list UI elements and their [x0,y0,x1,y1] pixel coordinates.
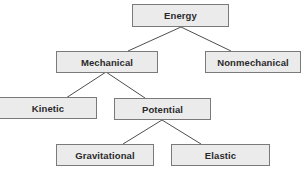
node-nonmechanical: Nonmechanical [205,51,301,73]
node-gravitational-label: Gravitational [75,150,134,161]
node-gravitational: Gravitational [56,144,154,166]
edge-energy-mechanical [128,27,181,51]
node-nonmechanical-label: Nonmechanical [217,57,289,68]
edge-potential-gravitational [123,120,162,144]
node-mechanical: Mechanical [56,51,158,73]
node-energy-label: Energy [164,10,197,21]
node-energy: Energy [132,4,229,27]
edge-mechanical-kinetic [66,72,106,98]
edge-mechanical-potential [106,72,145,98]
node-elastic: Elastic [171,144,270,166]
node-potential: Potential [114,98,211,120]
node-kinetic-label: Kinetic [32,103,64,114]
edge-potential-elastic [162,120,201,144]
node-elastic-label: Elastic [205,150,236,161]
node-mechanical-label: Mechanical [81,57,133,68]
node-kinetic: Kinetic [0,97,97,119]
edge-energy-nonmechanical [181,27,231,51]
node-potential-label: Potential [142,104,183,115]
